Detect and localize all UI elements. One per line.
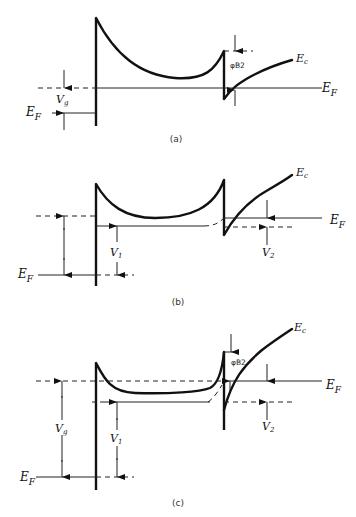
conduction-band-right bbox=[224, 329, 292, 410]
v2-label: V2 bbox=[262, 246, 275, 260]
ef-left-label: EF bbox=[25, 105, 42, 122]
vg-label: Vg bbox=[55, 422, 68, 436]
ec-label: Ec bbox=[295, 52, 308, 66]
v2-label: V2 bbox=[262, 420, 275, 434]
ef-right-label: EF bbox=[325, 378, 342, 395]
v1-label: V1 bbox=[110, 432, 122, 446]
conduction-band-curve bbox=[96, 180, 224, 218]
ef-left-label: EF bbox=[19, 470, 36, 487]
band-diagram-figure: φB2 Ec EF EF Vg (a) bbox=[0, 0, 356, 517]
ef-right-label: EF bbox=[321, 81, 338, 98]
ef-left-label: EF bbox=[17, 267, 34, 284]
caption-b: (b) bbox=[172, 297, 185, 307]
v1-label: V1 bbox=[110, 246, 122, 260]
ec-label: Ec bbox=[293, 321, 306, 335]
barrier-height-label: φB2 bbox=[230, 61, 245, 70]
vg-label: Vg bbox=[56, 93, 69, 107]
panel-a: φB2 Ec EF EF Vg (a) bbox=[25, 18, 338, 144]
ef-right-label: EF bbox=[329, 213, 346, 230]
conduction-band-curve bbox=[96, 352, 224, 393]
ec-label: Ec bbox=[295, 166, 308, 180]
barrier-height-label: φB2 bbox=[231, 358, 246, 367]
caption-c: (c) bbox=[172, 498, 184, 508]
panel-b: V1 V2 Ec EF EF (b) bbox=[17, 166, 346, 307]
conduction-band-curve bbox=[96, 18, 224, 78]
caption-a: (a) bbox=[170, 134, 183, 144]
v1-level-dashed-bend bbox=[204, 218, 224, 226]
panel-c: φB2 Ec EF EF Vg V1 V2 (c) bbox=[19, 321, 342, 508]
conduction-band-right bbox=[224, 175, 292, 235]
